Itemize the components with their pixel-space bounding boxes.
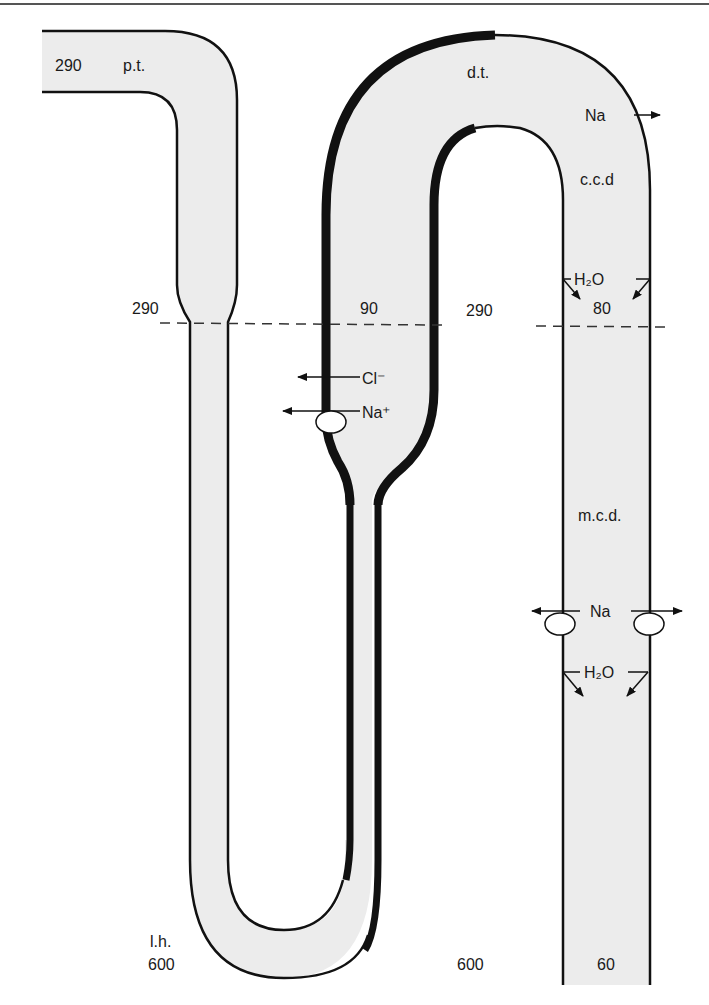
dt-osmolality: 90 — [360, 301, 378, 317]
tubule-fill — [42, 31, 650, 985]
lh-osmolality: 600 — [148, 957, 175, 973]
medulla-interstitium-osmolality: 600 — [457, 957, 484, 973]
ccd-osmolality: 80 — [593, 301, 611, 317]
dt-na-label: Na — [585, 108, 605, 124]
nephron-diagram — [0, 0, 709, 1005]
cortex-interstitium-osmolality: 290 — [466, 303, 493, 319]
ccd-water-label: H₂O — [572, 272, 606, 288]
pt-label: p.t. — [123, 58, 145, 74]
ccd-label: c.c.d — [580, 172, 614, 188]
mcd-final-osmolality: 60 — [597, 957, 615, 973]
tal-na-label: Na⁺ — [362, 405, 390, 421]
mcd-na-label: Na — [590, 604, 610, 620]
tal-cl-label: Cl⁻ — [362, 371, 385, 387]
mcd-label: m.c.d. — [578, 508, 622, 524]
lh-label: l.h. — [150, 934, 171, 950]
mcd-water-label: H₂O — [582, 665, 616, 681]
pt-end-osmolality: 290 — [132, 301, 159, 317]
dt-label: d.t. — [467, 65, 489, 81]
pt-osmolality: 290 — [55, 58, 82, 74]
